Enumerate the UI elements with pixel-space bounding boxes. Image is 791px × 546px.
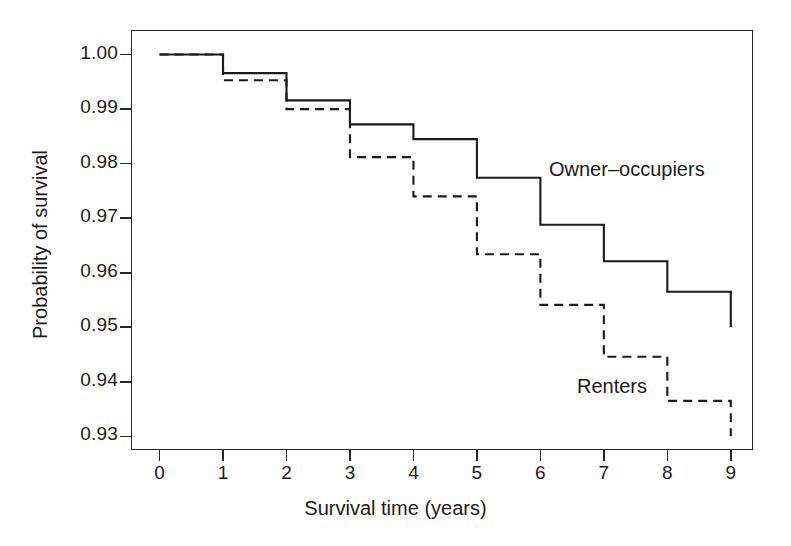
y-axis-tick-mark bbox=[120, 436, 131, 438]
y-axis-tick-label: 0.96 bbox=[80, 260, 118, 282]
x-axis-tick-mark bbox=[159, 450, 161, 461]
y-axis-tick-mark bbox=[120, 326, 131, 328]
x-axis-tick-mark bbox=[730, 450, 732, 461]
survival-curve-figure: 0.930.940.950.960.970.980.991.00 Probabi… bbox=[0, 0, 791, 546]
x-axis-title: Survival time (years) bbox=[0, 497, 791, 520]
y-axis-tick-mark bbox=[120, 54, 131, 56]
x-axis-tick-label: 5 bbox=[457, 462, 497, 484]
x-axis-tick-mark bbox=[349, 450, 351, 461]
y-axis-tick-mark bbox=[120, 272, 131, 274]
x-axis-tick-mark bbox=[603, 450, 605, 461]
y-axis-title: Probability of survival bbox=[29, 95, 52, 395]
y-axis-tick-label: 0.93 bbox=[80, 423, 118, 445]
y-axis-tick-mark bbox=[120, 108, 131, 110]
y-axis-tick-label: 1.00 bbox=[80, 42, 118, 64]
y-axis-tick-label: 0.95 bbox=[80, 314, 118, 336]
x-axis-tick-mark bbox=[476, 450, 478, 461]
x-axis-tick-mark bbox=[286, 450, 288, 461]
x-axis-tick-label: 3 bbox=[330, 462, 370, 484]
y-axis-tick-mark bbox=[120, 381, 131, 383]
y-axis-tick-label: 0.98 bbox=[80, 151, 118, 173]
x-axis-tick-mark bbox=[222, 450, 224, 461]
y-axis-tick-label: 0.94 bbox=[80, 369, 118, 391]
y-axis-tick-label: 0.97 bbox=[80, 205, 118, 227]
x-axis-tick-label: 1 bbox=[203, 462, 243, 484]
x-axis-tick-label: 4 bbox=[393, 462, 433, 484]
plot-frame bbox=[131, 30, 753, 450]
x-axis-tick-mark bbox=[667, 450, 669, 461]
y-axis-tick-mark bbox=[120, 163, 131, 165]
x-axis-tick-label: 8 bbox=[647, 462, 687, 484]
x-axis-tick-label: 7 bbox=[584, 462, 624, 484]
x-axis-tick-label: 9 bbox=[711, 462, 751, 484]
y-axis-tick-label: 0.99 bbox=[80, 96, 118, 118]
x-axis-tick-mark bbox=[413, 450, 415, 461]
x-axis-tick-label: 6 bbox=[520, 462, 560, 484]
y-axis-tick-labels: 0.930.940.950.960.970.980.991.00 bbox=[0, 0, 118, 546]
x-axis-tick-label: 0 bbox=[140, 462, 180, 484]
x-axis-tick-mark bbox=[540, 450, 542, 461]
y-axis-tick-mark bbox=[120, 217, 131, 219]
series-label-renters: Renters bbox=[577, 375, 647, 398]
x-axis-tick-label: 2 bbox=[267, 462, 307, 484]
series-label-owner-occupiers: Owner–occupiers bbox=[549, 158, 705, 181]
